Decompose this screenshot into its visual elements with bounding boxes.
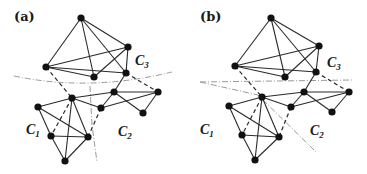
cluster-label-c2: C2 — [118, 124, 132, 141]
node — [97, 104, 104, 111]
panel-b: (b) — [200, 9, 353, 164]
node — [42, 63, 49, 70]
cluster-label-c1: C1 — [200, 122, 214, 139]
node — [122, 69, 129, 76]
node — [287, 103, 294, 110]
node — [275, 133, 282, 140]
panel-a-nodes — [34, 14, 161, 164]
panel-a-edges — [38, 18, 158, 161]
node — [77, 14, 84, 21]
node — [267, 14, 274, 21]
node — [47, 132, 54, 139]
panel-b-nodes — [225, 14, 352, 163]
node — [110, 88, 117, 95]
node — [34, 103, 41, 110]
node — [345, 88, 352, 95]
panel-b-inter-edges — [235, 66, 349, 137]
node — [238, 131, 245, 138]
node — [315, 42, 322, 49]
cluster-diagram: (a) — [0, 0, 367, 174]
panel-b-cut-lines — [200, 80, 352, 152]
cluster-label-c2: C2 — [310, 123, 324, 140]
node — [300, 88, 307, 95]
node — [258, 93, 265, 100]
panel-a-label: (a) — [14, 9, 35, 24]
node — [139, 109, 146, 116]
panel-b-edges — [229, 18, 349, 160]
cluster-label-c3: C3 — [327, 55, 341, 72]
node — [231, 62, 238, 69]
node — [84, 133, 91, 140]
node — [61, 157, 68, 164]
cluster-label-c3: C3 — [135, 53, 149, 70]
node — [154, 88, 161, 95]
panel-a-inter-edges — [46, 67, 158, 137]
panel-b-label: (b) — [200, 9, 221, 24]
node — [281, 73, 288, 80]
node — [90, 73, 97, 80]
node — [251, 156, 258, 163]
panel-a: (a) — [14, 9, 172, 165]
panel-a-cut-lines — [14, 72, 172, 162]
node — [225, 102, 232, 109]
node — [328, 108, 335, 115]
node — [312, 68, 319, 75]
node — [124, 43, 131, 50]
cluster-label-c1: C1 — [26, 122, 40, 139]
node — [68, 94, 75, 101]
